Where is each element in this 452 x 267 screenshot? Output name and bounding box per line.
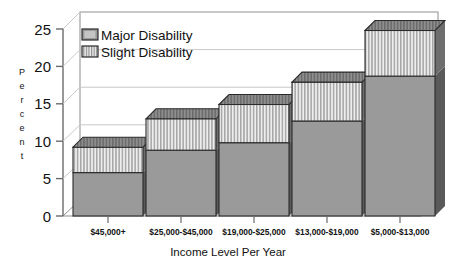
x-tick-label: $13,000-$19,000 — [295, 227, 359, 237]
legend-label-slight: Slight Disability — [101, 45, 193, 60]
bar-segment-slight[interactable] — [292, 82, 362, 121]
bar-top-face — [219, 95, 299, 105]
bar-segment-major[interactable] — [292, 121, 362, 216]
y-tick-label-10: 10 — [34, 133, 51, 150]
bar-group[interactable] — [146, 109, 226, 216]
legend-label-major: Major Disability — [101, 28, 193, 43]
y-axis-title-letter: e — [19, 123, 24, 133]
x-tick-label: $25,000-$45,000 — [149, 227, 213, 237]
x-tick-label: $5,000-$13,000 — [371, 227, 430, 237]
y-axis-title-letter: n — [19, 137, 24, 147]
bar-segment-slight[interactable] — [73, 147, 143, 172]
y-tick-label-15: 15 — [34, 95, 51, 112]
x-tick-label: $45,000+ — [90, 227, 125, 237]
y-axis-title: P e r c e n t — [19, 67, 25, 161]
bar-group[interactable] — [219, 95, 299, 217]
bar-segment-slight[interactable] — [365, 31, 435, 77]
bar-top-face — [73, 137, 153, 147]
y-axis-title-letter: c — [20, 109, 25, 119]
bar-segment-slight[interactable] — [219, 105, 289, 143]
bar-top-face — [146, 109, 226, 119]
bar-segment-major[interactable] — [365, 76, 435, 216]
y-tick-label-20: 20 — [34, 58, 51, 75]
x-tick-label: $19,000-$25,000 — [222, 227, 286, 237]
y-tick-label-0: 0 — [43, 208, 51, 225]
y-axis-title-letter: P — [19, 67, 25, 77]
bar-segment-slight[interactable] — [146, 119, 216, 150]
bar-top-face — [292, 72, 372, 82]
y-tick-label-25: 25 — [34, 21, 51, 38]
x-axis-title: Income Level Per Year — [170, 246, 286, 258]
bar-segment-major[interactable] — [146, 150, 216, 216]
bar-chart: 25 20 15 10 5 0 P e r c e n t — [0, 0, 452, 267]
bar-segment-major[interactable] — [73, 173, 143, 216]
bar-group[interactable] — [73, 137, 153, 216]
bar-group[interactable] — [292, 72, 372, 216]
chart-container: 25 20 15 10 5 0 P e r c e n t — [0, 0, 452, 267]
y-axis-title-letter: r — [21, 95, 24, 105]
bar-segment-major[interactable] — [219, 143, 289, 216]
legend-swatch-striped-icon — [82, 46, 98, 57]
y-axis-title-letter: e — [19, 81, 24, 91]
y-tick-label-5: 5 — [43, 170, 51, 187]
bar-top-face — [365, 21, 445, 31]
bar-group[interactable] — [365, 21, 445, 217]
